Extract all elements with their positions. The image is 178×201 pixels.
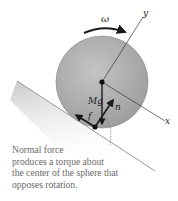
y-axis-label: y bbox=[142, 8, 149, 18]
omega-rotation-arrow bbox=[84, 28, 125, 33]
caption-line: the center of the sphere that bbox=[12, 167, 142, 179]
caption-line: produces a torque about bbox=[12, 156, 142, 168]
caption-line: Normal force bbox=[12, 144, 142, 156]
omega-label: ω bbox=[101, 13, 109, 24]
contact-point bbox=[92, 124, 97, 129]
caption: Normal force produces a torque about the… bbox=[12, 144, 142, 190]
weight-label: Mg bbox=[87, 96, 103, 106]
caption-line: opposes rotation. bbox=[12, 179, 142, 191]
x-axis-label: x bbox=[165, 116, 170, 126]
sphere-center-point bbox=[99, 79, 104, 84]
normal-force-label: n bbox=[115, 102, 121, 112]
